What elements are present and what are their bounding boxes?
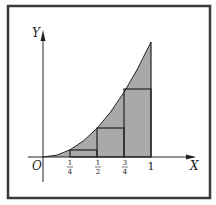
svg-text:2: 2 xyxy=(96,168,100,176)
svg-text:4: 4 xyxy=(68,168,73,176)
origin-label: O xyxy=(32,159,42,173)
svg-text:4: 4 xyxy=(123,168,128,176)
tick-half: 1 2 xyxy=(95,159,101,176)
svg-text:1: 1 xyxy=(96,159,100,167)
y-axis-label: Y xyxy=(32,26,41,40)
svg-text:1: 1 xyxy=(68,159,72,167)
riemann-sum-diagram: Y X O 1 4 1 2 3 4 1 xyxy=(0,0,216,205)
tick-three-quarters: 3 4 xyxy=(122,159,128,176)
svg-text:3: 3 xyxy=(123,159,127,167)
x-axis-label: X xyxy=(189,159,199,173)
y-axis-arrow-icon xyxy=(41,30,46,41)
tick-one: 1 xyxy=(148,160,155,173)
tick-quarter: 1 4 xyxy=(67,159,73,176)
